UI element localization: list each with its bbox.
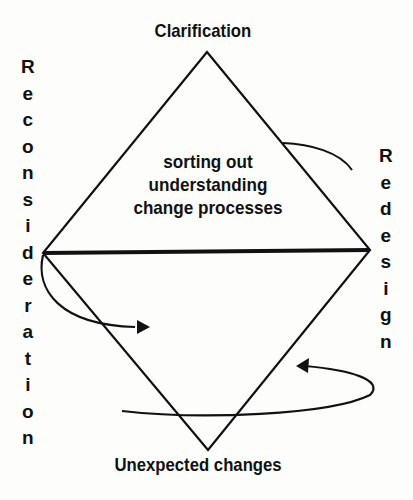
letter: d	[380, 196, 392, 223]
reconsideration-arrow	[42, 255, 135, 327]
center-line: change processes	[100, 196, 316, 219]
letter: o	[22, 399, 34, 426]
diamond-diagram	[0, 0, 413, 500]
letter: R	[21, 54, 35, 81]
letter: e	[381, 223, 392, 250]
letter: i	[25, 213, 30, 240]
arrowhead-icon	[296, 358, 309, 373]
letter: n	[22, 160, 34, 187]
letter: e	[381, 170, 392, 197]
center-line: sorting out	[100, 150, 316, 173]
letter: g	[380, 302, 392, 329]
left-vertical-label: R e c o n s i d e r a t i o n	[21, 54, 35, 452]
letter: R	[379, 143, 393, 170]
letter: c	[23, 107, 34, 134]
letter: e	[23, 81, 34, 108]
letter: r	[24, 293, 31, 320]
letter: e	[23, 266, 34, 293]
letter: a	[23, 319, 34, 346]
letter: d	[22, 240, 34, 267]
letter: i	[25, 372, 30, 399]
diagram-canvas: Clarification Unexpected changes sorting…	[0, 0, 413, 500]
arrowhead-icon	[137, 320, 150, 334]
letter: n	[22, 425, 34, 452]
letter: s	[381, 249, 392, 276]
redesign-loop-arrow	[122, 366, 374, 415]
letter: i	[383, 276, 388, 303]
bottom-label: Unexpected changes	[114, 454, 281, 476]
right-vertical-label: R e d e s i g n	[379, 143, 393, 355]
center-text: sorting out understanding change process…	[100, 150, 316, 219]
letter: s	[23, 187, 34, 214]
center-divider	[43, 250, 370, 253]
letter: t	[25, 346, 31, 373]
top-label: Clarification	[155, 20, 252, 42]
center-line: understanding	[100, 173, 316, 196]
letter: n	[380, 329, 392, 356]
letter: o	[22, 134, 34, 161]
